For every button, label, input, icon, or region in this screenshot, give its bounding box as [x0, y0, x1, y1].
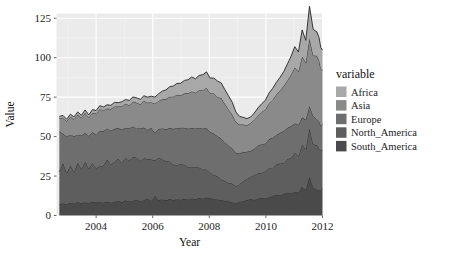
y-tick-label: 25: [40, 170, 52, 182]
legend-label-africa: Africa: [351, 87, 378, 98]
y-axis-title: Value: [4, 101, 16, 127]
stacked-area-chart: 025507510012520042006200820102012YearVal…: [0, 0, 449, 261]
y-tick-label: 125: [35, 12, 52, 24]
x-tick-label: 2006: [142, 220, 165, 232]
legend-swatch-south-america[interactable]: [336, 141, 347, 152]
legend-label-asia: Asia: [351, 100, 371, 111]
y-tick-label: 0: [46, 209, 52, 221]
x-tick-label: 2004: [85, 220, 108, 232]
x-axis-title: Year: [179, 236, 200, 248]
chart-container: 025507510012520042006200820102012YearVal…: [0, 0, 449, 261]
y-tick-label: 100: [35, 51, 52, 63]
y-tick-label: 50: [40, 130, 52, 142]
x-tick-label: 2008: [198, 220, 221, 232]
y-tick-label: 75: [40, 91, 52, 103]
legend-swatch-africa[interactable]: [336, 87, 347, 98]
legend-label-south-america: South_America: [351, 141, 417, 152]
legend-label-europe: Europe: [351, 114, 382, 125]
legend-item[interactable]: Europe: [336, 114, 382, 125]
x-tick-label: 2012: [312, 220, 334, 232]
legend-swatch-europe[interactable]: [336, 114, 347, 125]
legend-swatch-asia[interactable]: [336, 100, 347, 111]
legend: variableAfricaAsiaEuropeNorth_AmericaSou…: [336, 67, 417, 152]
legend-swatch-north-america[interactable]: [336, 127, 347, 138]
legend-item[interactable]: Africa: [336, 87, 378, 98]
legend-label-north-america: North_America: [351, 127, 417, 138]
x-tick-label: 2010: [255, 220, 278, 232]
legend-title: variable: [336, 67, 375, 81]
legend-item[interactable]: North_America: [336, 127, 417, 138]
legend-item[interactable]: South_America: [336, 141, 417, 152]
legend-item[interactable]: Asia: [336, 100, 371, 111]
